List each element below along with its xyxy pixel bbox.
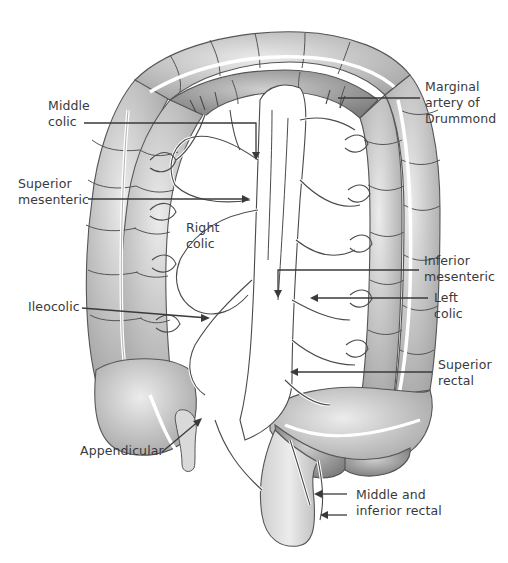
arrowhead-left-colic (310, 294, 318, 302)
label-middle-colic: Middle colic (48, 98, 90, 130)
label-superior-mesenteric: Superior mesenteric (18, 176, 89, 208)
colon-blood-supply-diagram: Middle colic Superior mesenteric Right c… (0, 0, 508, 563)
label-right-colic: Right colic (186, 220, 219, 252)
label-inferior-mesenteric: Inferior mesenteric (424, 253, 495, 285)
label-middle-inferior-rectal: Middle and inferior rectal (356, 487, 442, 519)
label-left-colic: Left colic (434, 290, 463, 322)
label-ileocolic: Ileocolic (28, 299, 80, 315)
label-marginal-artery: Marginal artery of Drummond (425, 79, 496, 127)
label-appendicular: Appendicular (80, 443, 164, 459)
arrowhead-middle-rectal (314, 490, 322, 498)
aorta (240, 85, 306, 440)
label-superior-rectal: Superior rectal (438, 357, 492, 389)
